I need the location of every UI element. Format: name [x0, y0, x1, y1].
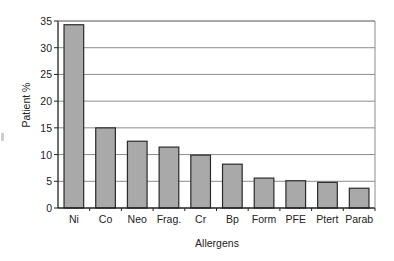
- x-tick-label: Form: [252, 213, 277, 225]
- x-tick-label: Bp: [226, 213, 239, 225]
- y-axis-ticks: 05101520253035: [40, 15, 58, 214]
- bar-pfe: [286, 181, 306, 208]
- x-tick-label: PFE: [286, 213, 306, 225]
- x-tick-label: Parab: [345, 213, 373, 225]
- bar-bp: [223, 164, 243, 208]
- bar-frag: [159, 147, 179, 208]
- x-tick-label: Neo: [128, 213, 147, 225]
- y-tick-label: 30: [40, 42, 52, 54]
- x-tick-label: Frag.: [157, 213, 182, 225]
- bars: [64, 25, 369, 208]
- y-tick-label: 35: [40, 15, 52, 27]
- y-tick-label: 5: [46, 175, 52, 187]
- bar-ni: [64, 25, 84, 208]
- bar-neo: [127, 141, 147, 208]
- x-axis-ticks: NiCoNeoFrag.CrBpFormPFEPtertParab: [69, 208, 375, 225]
- bar-co: [96, 128, 116, 208]
- x-tick-label: Ptert: [316, 213, 338, 225]
- y-tick-label: 10: [40, 149, 52, 161]
- y-axis-title: Patient %: [20, 83, 32, 128]
- y-tick-label: 20: [40, 95, 52, 107]
- bar-parab: [349, 188, 369, 208]
- x-tick-label: Ni: [69, 213, 79, 225]
- y-tick-label: 0: [46, 202, 52, 214]
- x-axis-title: Allergens: [195, 237, 239, 249]
- x-tick-label: Cr: [195, 213, 207, 225]
- bar-form: [254, 178, 274, 208]
- y-tick-label: 15: [40, 122, 52, 134]
- bar-cr: [191, 155, 211, 208]
- x-tick-label: Co: [99, 213, 113, 225]
- y-tick-label: 25: [40, 68, 52, 80]
- bar-ptert: [318, 182, 338, 208]
- bar-chart: 05101520253035 NiCoNeoFrag.CrBpFormPFEPt…: [0, 0, 394, 261]
